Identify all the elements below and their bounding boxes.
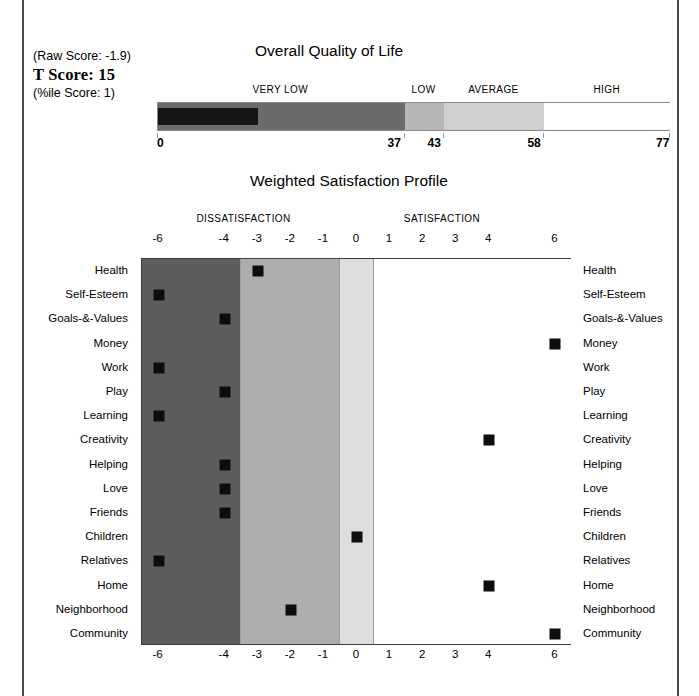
profile-tick-label: 2: [419, 648, 425, 660]
profile-tick-label: 4: [485, 648, 491, 660]
row-label-right-home: Home: [583, 579, 614, 591]
row-label-left-health: Health: [95, 264, 128, 276]
axis-group-label-satisfaction: SATISFACTION: [404, 213, 480, 224]
qol-tick-label: 77: [656, 136, 669, 150]
profile-chart-title: Weighted Satisfaction Profile: [250, 172, 448, 190]
profile-marker-love: [219, 483, 230, 494]
percentile-score-label: (%ile Score: 1): [33, 85, 131, 101]
profile-band-mild: [340, 259, 373, 644]
row-label-right-relatives: Relatives: [583, 554, 630, 566]
profile-marker-helping: [219, 459, 230, 470]
row-label-right-health: Health: [583, 264, 616, 276]
row-label-right-friends: Friends: [583, 506, 621, 518]
profile-tick-label: -6: [152, 232, 162, 244]
axis-group-label-dissatisfaction: DISSATISFACTION: [196, 213, 290, 224]
profile-tick-label: 3: [452, 232, 458, 244]
qol-band-label-very-low: VERY LOW: [252, 84, 308, 95]
qol-bar-chart: [157, 102, 670, 131]
report-page: (Raw Score: -1.9) T Score: 15 (%ile Scor…: [0, 0, 699, 696]
profile-tick-label: 0: [353, 232, 359, 244]
score-summary: (Raw Score: -1.9) T Score: 15 (%ile Scor…: [33, 48, 131, 101]
profile-tick-label: 1: [386, 232, 392, 244]
row-label-left-work: Work: [101, 361, 128, 373]
row-label-left-self-esteem: Self-Esteem: [65, 288, 128, 300]
qol-band-low: [405, 103, 446, 130]
profile-tick-label: 3: [452, 648, 458, 660]
row-label-left-community: Community: [70, 627, 128, 639]
qol-score-fill: [158, 108, 258, 125]
profile-marker-friends: [219, 507, 230, 518]
qol-tick-label: 37: [388, 136, 401, 150]
row-label-left-neighborhood: Neighborhood: [56, 603, 128, 615]
profile-axis-bottom: -6-4-3-2-1012346: [141, 648, 571, 664]
qol-band-average: [444, 103, 545, 130]
profile-marker-goals-values: [219, 314, 230, 325]
profile-tick-label: -6: [152, 648, 162, 660]
profile-marker-creativity: [484, 435, 495, 446]
qol-band-label-average: AVERAGE: [468, 84, 518, 95]
profile-marker-work: [153, 362, 164, 373]
row-label-right-money: Money: [583, 337, 618, 349]
qol-tick-mark: [404, 133, 405, 138]
profile-marker-community: [550, 628, 561, 639]
profile-tick-label: 2: [419, 232, 425, 244]
t-score-label: T Score: 15: [33, 64, 131, 85]
profile-marker-self-esteem: [153, 290, 164, 301]
raw-score-label: (Raw Score: -1.9): [33, 48, 131, 64]
profile-marker-health: [252, 266, 263, 277]
qol-band-high: [544, 103, 671, 130]
row-label-left-money: Money: [93, 337, 128, 349]
qol-tick-label: 58: [527, 136, 540, 150]
profile-tick-label: 6: [551, 232, 557, 244]
profile-band-satisfied: [374, 259, 572, 644]
profile-plot-area: [141, 258, 571, 645]
row-label-right-creativity: Creativity: [583, 433, 631, 445]
profile-tick-label: -2: [285, 232, 295, 244]
profile-marker-relatives: [153, 556, 164, 567]
profile-tick-label: -3: [252, 232, 262, 244]
profile-tick-label: -1: [318, 648, 328, 660]
row-label-left-goals-values: Goals-&-Values: [48, 312, 128, 324]
row-label-right-play: Play: [583, 385, 605, 397]
row-label-left-play: Play: [106, 385, 128, 397]
qol-tick-label: 0: [157, 136, 164, 150]
profile-marker-learning: [153, 411, 164, 422]
profile-axis-top: -6-4-3-2-1012346: [141, 232, 571, 248]
qol-tick-mark: [543, 133, 544, 138]
row-label-right-community: Community: [583, 627, 641, 639]
row-label-left-creativity: Creativity: [80, 433, 128, 445]
qol-band-label-high: HIGH: [593, 84, 620, 95]
qol-axis: 037435877: [157, 133, 670, 151]
profile-tick-label: 4: [485, 232, 491, 244]
row-label-left-learning: Learning: [83, 409, 128, 421]
row-label-left-helping: Helping: [89, 458, 128, 470]
row-label-right-love: Love: [583, 482, 608, 494]
qol-chart-title: Overall Quality of Life: [255, 42, 403, 60]
profile-tick-label: -1: [318, 232, 328, 244]
profile-tick-label: -4: [219, 232, 229, 244]
qol-band-label-row: VERY LOWLOWAVERAGEHIGH: [157, 84, 670, 98]
row-label-right-children: Children: [583, 530, 626, 542]
profile-marker-neighborhood: [285, 604, 296, 615]
row-label-right-helping: Helping: [583, 458, 622, 470]
profile-band-moderate: [241, 259, 340, 644]
row-label-left-relatives: Relatives: [81, 554, 128, 566]
row-label-right-learning: Learning: [583, 409, 628, 421]
qol-tick-label: 43: [427, 136, 440, 150]
qol-tick-mark: [443, 133, 444, 138]
profile-marker-money: [550, 338, 561, 349]
profile-tick-label: 0: [353, 648, 359, 660]
row-label-right-self-esteem: Self-Esteem: [583, 288, 646, 300]
row-label-right-neighborhood: Neighborhood: [583, 603, 655, 615]
page-border-right: [677, 0, 679, 696]
profile-marker-children: [352, 532, 363, 543]
row-label-left-love: Love: [103, 482, 128, 494]
profile-marker-play: [219, 387, 230, 398]
profile-tick-label: 1: [386, 648, 392, 660]
row-label-left-children: Children: [85, 530, 128, 542]
row-label-left-friends: Friends: [90, 506, 128, 518]
row-label-right-work: Work: [583, 361, 610, 373]
profile-marker-home: [484, 580, 495, 591]
profile-tick-label: -2: [285, 648, 295, 660]
row-label-left-home: Home: [97, 579, 128, 591]
